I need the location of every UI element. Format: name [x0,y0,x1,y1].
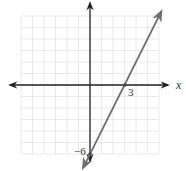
coordinate-plane: x 3 −6 [0,0,186,171]
graph-line [83,11,161,167]
y-intercept-point [88,152,92,156]
x-intercept-point [123,83,127,87]
y-intercept-label: −6 [74,145,86,157]
x-axis-label: x [175,78,182,92]
x-intercept-label: 3 [128,86,134,98]
